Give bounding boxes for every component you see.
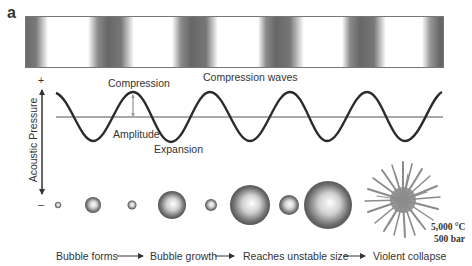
- diagram-graphics: [0, 0, 472, 266]
- axis-plus-label: +: [38, 74, 44, 86]
- bubble-5: [205, 199, 217, 211]
- axis-minus-label: –: [38, 198, 44, 210]
- bubble-8: [304, 181, 352, 229]
- bubble-7: [279, 195, 299, 215]
- bubble-3: [128, 201, 137, 210]
- stage-unstable-size: Reaches unstable size: [243, 250, 349, 262]
- axis-label: Acoustic Pressure: [27, 95, 39, 185]
- compression-label: Compression: [108, 77, 170, 89]
- collapse-pressure: 500 bar: [434, 234, 465, 244]
- bubble-1: [55, 202, 61, 208]
- wave-title: Compression waves: [203, 71, 298, 83]
- collapse-burst-icon: [365, 162, 440, 237]
- bubbles: [55, 181, 352, 229]
- collapse-temperature: 5,000 °C: [431, 222, 465, 232]
- stage-bubble-forms: Bubble forms: [56, 250, 118, 262]
- stage-violent-collapse: Violent collapse: [373, 250, 446, 262]
- stage-bubble-growth: Bubble growth: [150, 250, 217, 262]
- amplitude-label: Amplitude: [113, 128, 160, 140]
- bubble-2: [85, 197, 101, 213]
- bubble-6: [230, 185, 270, 225]
- expansion-label: Expansion: [154, 143, 203, 155]
- bubble-4: [158, 191, 186, 219]
